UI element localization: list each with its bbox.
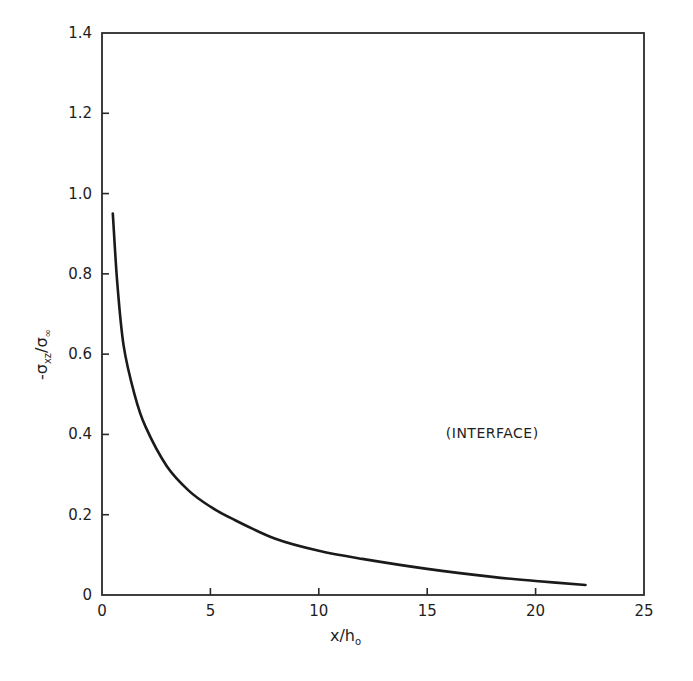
y-tick-label: 0.8 [68,265,92,283]
y-axis-label: -σxz/σ∞ [32,329,53,380]
data-curve [113,214,586,585]
chart: 00.20.40.60.81.01.21.4 0510152025 (INTER… [0,0,693,681]
y-tick-label: 1.0 [68,185,92,203]
x-axis-ticks: 0510152025 [97,588,653,620]
x-tick-label: 25 [634,602,653,620]
x-tick-label: 10 [309,602,328,620]
x-tick-label: 5 [206,602,216,620]
y-tick-label: 0.6 [68,345,92,363]
svg-text:-σxz/σ∞: -σxz/σ∞ [32,329,53,380]
y-tick-label: 1.2 [68,104,92,122]
y-tick-label: 1.4 [68,24,92,42]
x-tick-label: 15 [418,602,437,620]
y-tick-label: 0 [82,586,92,604]
x-tick-label: 0 [97,602,107,620]
plot-frame [102,33,644,595]
x-axis-label: x/ho [330,626,361,647]
y-tick-label: 0.2 [68,506,92,524]
y-tick-label: 0.4 [68,425,92,443]
x-tick-label: 20 [526,602,545,620]
interface-annotation: (INTERFACE) [446,425,539,441]
